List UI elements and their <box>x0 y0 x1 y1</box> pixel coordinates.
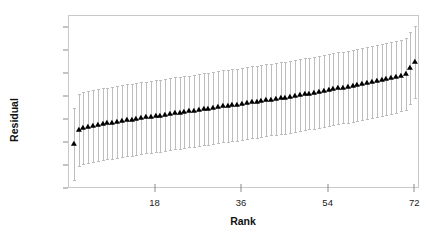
error-bar-cap <box>294 60 297 61</box>
error-bar-cap <box>400 111 403 112</box>
error-bar-cap <box>318 56 321 57</box>
error-bar-cap <box>299 131 302 132</box>
y-axis-title: Residual <box>8 98 20 142</box>
error-bar-cap <box>251 138 254 139</box>
error-bar-cap <box>323 55 326 56</box>
error-bar-cap <box>347 51 350 52</box>
error-bar-cap <box>361 120 364 121</box>
error-bar-cap <box>308 58 311 59</box>
residual-rank-chart: Residual 1.51.00.50-0.5-1.0-1.5-2.0 Rank… <box>0 0 444 239</box>
error-bar-cap <box>193 75 196 76</box>
error-bar-cap <box>222 70 225 71</box>
error-bar-cap <box>78 94 81 95</box>
error-bar-cap <box>280 134 283 135</box>
error-bar-cap <box>97 161 100 162</box>
error-bar-cap <box>390 42 393 43</box>
error-bar-cap <box>337 124 340 125</box>
x-tick-mark <box>154 184 155 192</box>
error-bar-cap <box>174 77 177 78</box>
error-bar-cap <box>140 82 143 83</box>
error-bar-cap <box>241 68 244 69</box>
error-bar-cap <box>131 84 134 85</box>
error-bar-cap <box>270 64 273 65</box>
error-bar-cap <box>145 82 148 83</box>
error-bar-cap <box>102 160 105 161</box>
error-bar-cap <box>323 127 326 128</box>
error-bar-cap <box>366 47 369 48</box>
error-bar-cap <box>227 142 230 143</box>
error-bar-cap <box>179 77 182 78</box>
error-bar-cap <box>251 66 254 67</box>
error-bar-cap <box>135 83 138 84</box>
error-bar-cap <box>140 154 143 155</box>
error-bar-cap <box>92 162 95 163</box>
error-bar-cap <box>164 79 167 80</box>
error-bar-cap <box>246 67 249 68</box>
error-bar-cap <box>207 145 210 146</box>
error-bar-cap <box>289 133 292 134</box>
error-bar-cap <box>361 48 364 49</box>
error-bar-cap <box>337 52 340 53</box>
error-bar-cap <box>308 129 311 130</box>
error-bar-cap <box>332 125 335 126</box>
error-bar-cap <box>212 144 215 145</box>
error-bar-cap <box>390 114 393 115</box>
error-bar-cap <box>356 121 359 122</box>
error-bar-cap <box>102 88 105 89</box>
error-bar-cap <box>212 72 215 73</box>
error-bar-cap <box>92 90 95 91</box>
error-bar-cap <box>328 126 331 127</box>
error-bar-cap <box>87 91 90 92</box>
error-bar-cap <box>256 66 259 67</box>
error-bar-cap <box>159 80 162 81</box>
error-bar-cap <box>395 41 398 42</box>
error-bar-cap <box>366 119 369 120</box>
error-bar-cap <box>304 130 307 131</box>
error-bar-cap <box>135 155 138 156</box>
error-bar-cap <box>313 129 316 130</box>
error-bar-cap <box>313 57 316 58</box>
error-bar-cap <box>405 110 408 111</box>
error-bar-cap <box>284 62 287 63</box>
error-bar-cap <box>217 71 220 72</box>
error-bar-cap <box>116 158 119 159</box>
error-bar-cap <box>284 134 287 135</box>
error-bar-cap <box>328 54 331 55</box>
error-bar-cap <box>376 117 379 118</box>
x-tick-mark <box>414 184 415 192</box>
error-bar-cap <box>111 159 114 160</box>
error-bar-cap <box>342 52 345 53</box>
error-bar-cap <box>342 123 345 124</box>
x-tick-label: 54 <box>322 197 333 208</box>
error-bar-cap <box>265 64 268 65</box>
error-bar-cap <box>231 141 234 142</box>
error-bar-cap <box>203 145 206 146</box>
error-bar-cap <box>371 46 374 47</box>
error-bar-cap <box>111 87 114 88</box>
error-bar-cap <box>222 142 225 143</box>
error-bar-cap <box>155 80 158 81</box>
error-bar-cap <box>352 50 355 51</box>
error-bar-cap <box>236 141 239 142</box>
error-bar-cap <box>126 84 129 85</box>
error-bar-cap <box>145 153 148 154</box>
error-bar-cap <box>385 115 388 116</box>
error-bar-cap <box>299 59 302 60</box>
error-bar-cap <box>106 159 109 160</box>
error-bar-cap <box>265 136 268 137</box>
error-bar-cap <box>203 73 206 74</box>
error-bar-cap <box>318 128 321 129</box>
error-bar-cap <box>294 132 297 133</box>
error-bar-cap <box>169 78 172 79</box>
error-bar-cap <box>121 85 124 86</box>
error-bar-cap <box>198 74 201 75</box>
error-bar-cap <box>241 140 244 141</box>
error-bar-cap <box>409 32 412 33</box>
error-bar-cap <box>159 152 162 153</box>
error-bar-cap <box>356 49 359 50</box>
error-bar-cap <box>275 63 278 64</box>
error-bar-cap <box>275 135 278 136</box>
error-bar-cap <box>97 89 100 90</box>
error-bar-cap <box>131 156 134 157</box>
error-bar-cap <box>347 123 350 124</box>
